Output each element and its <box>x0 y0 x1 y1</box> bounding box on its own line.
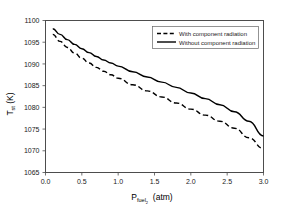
x-tick-label: 1.0 <box>113 178 123 185</box>
svg-text:Pfuel2 (atm): Pfuel2 (atm) <box>131 192 173 205</box>
legend-label-1: Without component radiation <box>179 40 255 46</box>
chart-canvas: 10651070107510801085109010951100 0.00.51… <box>0 0 284 209</box>
y-axis-title: Tst (K) <box>5 92 16 115</box>
x-axis-title-sub: fuel <box>137 197 146 203</box>
chart-legend: With component radiation Without compone… <box>153 27 259 49</box>
y-tick-label: 1090 <box>24 61 40 68</box>
x-tick-label: 2.5 <box>222 178 232 185</box>
x-axis-tick-labels: 0.00.51.01.52.02.53.0 <box>41 178 269 185</box>
x-tick-label: 3.0 <box>259 178 269 185</box>
svg-text:Tst (K): Tst (K) <box>5 92 16 115</box>
x-axis-title: Pfuel2 (atm) <box>131 192 173 205</box>
x-tick-label: 0.0 <box>41 178 51 185</box>
y-tick-label: 1065 <box>24 169 40 176</box>
y-tick-label: 1080 <box>24 104 40 111</box>
x-tick-label: 0.5 <box>77 178 87 185</box>
y-tick-label: 1100 <box>24 17 39 24</box>
y-axis-title-unit: (K) <box>5 92 15 104</box>
y-tick-label: 1095 <box>24 39 40 46</box>
data-series-0 <box>53 34 264 148</box>
y-axis-tick-labels: 10651070107510801085109010951100 <box>24 17 40 176</box>
y-tick-label: 1085 <box>24 82 40 89</box>
x-tick-label: 2.0 <box>186 178 196 185</box>
legend-label-0: With component radiation <box>179 31 247 37</box>
y-tick-label: 1075 <box>24 126 40 133</box>
x-tick-label: 1.5 <box>150 178 160 185</box>
chart-figure: 10651070107510801085109010951100 0.00.51… <box>0 0 284 209</box>
x-axis-title-unit: (atm) <box>153 192 173 202</box>
y-tick-label: 1070 <box>24 147 40 154</box>
